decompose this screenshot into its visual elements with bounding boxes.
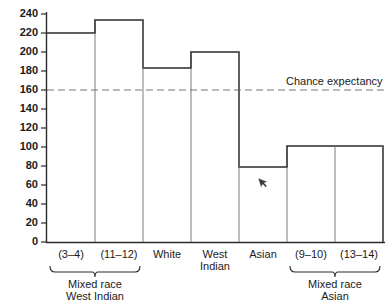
x-axis-category-labels: (3–4) (11–12) White West Indian Asian (9… (58, 248, 378, 272)
y-tick-label-40: 40 (26, 197, 38, 209)
y-tick-label-60: 60 (26, 178, 38, 190)
category-label-mixed-west-indian-11-12: (11–12) (100, 248, 137, 260)
y-tick-label-240: 240 (20, 7, 38, 19)
bar-chart-figure: 240 220 200 180 160 140 120 100 80 60 40… (0, 0, 388, 307)
chart-container: 240 220 200 180 160 140 120 100 80 60 40… (0, 0, 388, 307)
y-tick-label-140: 140 (20, 102, 38, 114)
group-label-mixed-west-indian-line1: Mixed race (68, 278, 122, 290)
y-tick-label-80: 80 (26, 159, 38, 171)
group-label-mixed-west-indian-line2: West Indian (66, 290, 124, 302)
group-label-mixed-asian-line1: Mixed race (308, 278, 362, 290)
category-label-white: White (153, 248, 181, 260)
group-label-mixed-asian-line2: Asian (321, 290, 349, 302)
bar-mixed-west-indian-3-4[interactable] (47, 33, 95, 242)
y-tick-label-180: 180 (20, 64, 38, 76)
y-tick-label-220: 220 (20, 26, 38, 38)
category-label-west-indian-line2: Indian (200, 260, 230, 272)
bar-white[interactable] (143, 68, 191, 242)
bar-asian[interactable] (239, 167, 287, 242)
category-label-west-indian-line1: West (203, 248, 228, 260)
bar-mixed-asian-13-14[interactable] (335, 146, 383, 242)
bar-hit-regions (47, 20, 383, 242)
bar-mixed-west-indian-11-12[interactable] (95, 20, 143, 242)
category-label-mixed-asian-13-14: (13–14) (340, 248, 378, 260)
chance-expectancy-label: Chance expectancy (286, 75, 383, 87)
category-label-mixed-asian-9-10: (9–10) (295, 248, 327, 260)
y-tick-label-120: 120 (20, 121, 38, 133)
y-tick-label-200: 200 (20, 45, 38, 57)
group-brace-mixed-asian (290, 266, 380, 277)
y-tick-label-20: 20 (26, 216, 38, 228)
bar-west-indian[interactable] (191, 52, 239, 242)
bar-mixed-asian-9-10[interactable] (287, 146, 335, 242)
category-label-mixed-west-indian-3-4: (3–4) (58, 248, 84, 260)
y-tick-label-160: 160 (20, 83, 38, 95)
category-label-asian: Asian (249, 248, 277, 260)
y-tick-label-0: 0 (32, 235, 38, 247)
group-labels: Mixed race West Indian Mixed race Asian (66, 278, 362, 302)
y-tick-label-100: 100 (20, 140, 38, 152)
group-brace-mixed-west-indian (50, 266, 140, 277)
y-axis-tick-labels: 240 220 200 180 160 140 120 100 80 60 40… (20, 7, 38, 247)
